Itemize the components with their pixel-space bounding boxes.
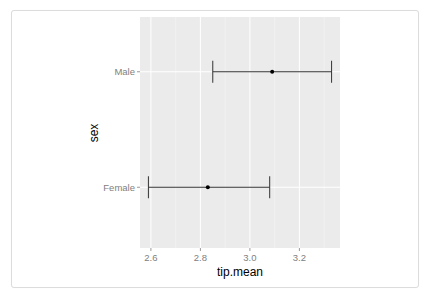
mean-point (270, 70, 274, 74)
y-tick-label: Male (114, 66, 135, 77)
x-tick-label: 3.2 (293, 252, 306, 263)
x-axis: 2.62.83.03.2 (144, 248, 306, 263)
x-tick-label: 2.8 (194, 252, 207, 263)
y-axis-title: sex (87, 124, 101, 143)
y-axis: MaleFemale (103, 66, 140, 193)
x-tick-label: 3.0 (243, 252, 256, 263)
y-tick-label: Female (103, 182, 135, 193)
mean-point (206, 185, 210, 189)
plot-panel (140, 17, 340, 248)
x-axis-title: tip.mean (217, 265, 263, 279)
x-tick-label: 2.6 (144, 252, 157, 263)
errorbar-chart: 2.62.83.03.2 MaleFemale tip.mean sex (0, 0, 429, 298)
